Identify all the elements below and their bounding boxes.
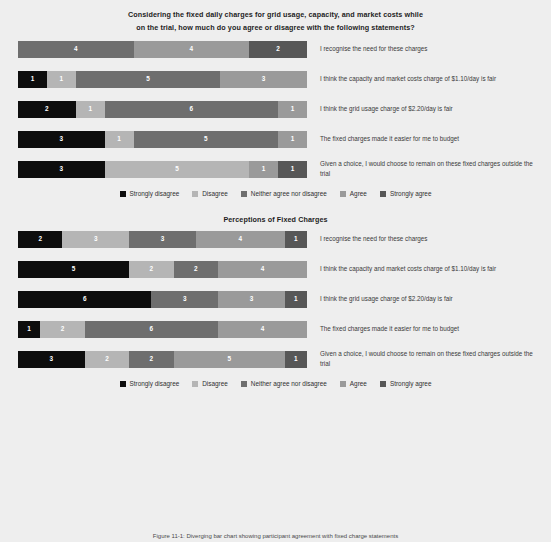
figure-page: Considering the fixed daily charges for … (0, 0, 551, 542)
chart-row: 2161I think the grid usage charge of $2.… (8, 94, 543, 124)
figure-caption: Figure 11-1: Diverging bar chart showing… (0, 533, 551, 542)
legend-item: Agree (340, 380, 367, 387)
stacked-bar: 23341 (18, 231, 307, 248)
row-label: The fixed charges made it easier for me … (320, 324, 543, 334)
bar-segment: 1 (105, 131, 134, 148)
legend-label: Strongly disagree (130, 190, 180, 197)
legend-item: Strongly agree (380, 190, 432, 197)
legend-swatch-icon (340, 191, 346, 197)
bar-segment: 2 (18, 101, 76, 118)
section-spacer (0, 197, 551, 215)
bar-segment: 5 (134, 131, 279, 148)
bar-segment: 3 (18, 131, 105, 148)
stacked-bar: 1153 (18, 71, 307, 88)
bar-segment: 1 (76, 101, 105, 118)
bar-segment: 3 (218, 291, 285, 308)
legend-item: Neither agree nor disagree (241, 380, 327, 387)
chart-1-rows: 442I recognise the need for these charge… (8, 34, 543, 184)
row-label: Given a choice, I would choose to remain… (320, 349, 543, 369)
bar-segment: 3 (62, 231, 129, 248)
legend-label: Strongly agree (390, 380, 432, 387)
legend-label: Agree (350, 190, 367, 197)
row-label: I think the grid usage charge of $2.20/d… (320, 294, 543, 304)
bar-segment: 1 (278, 161, 307, 178)
legend-item: Strongly disagree (120, 380, 180, 387)
row-label: I think the capacity and market costs ch… (320, 74, 543, 84)
chart-row: 5224I think the capacity and market cost… (8, 254, 543, 284)
legend-swatch-icon (380, 191, 386, 197)
chart-row: 1264The fixed charges made it easier for… (8, 314, 543, 344)
bar-segment: 3 (151, 291, 218, 308)
legend-swatch-icon (192, 381, 198, 387)
legend-item: Agree (340, 190, 367, 197)
row-label: I think the capacity and market costs ch… (320, 264, 543, 274)
row-label: I recognise the need for these charges (320, 234, 543, 244)
chart-row: 6331I think the grid usage charge of $2.… (8, 284, 543, 314)
chart-row: 3151The fixed charges made it easier for… (8, 124, 543, 154)
chart-1: Considering the fixed daily charges for … (0, 0, 551, 197)
bar-segment: 5 (174, 351, 285, 368)
row-label: I recognise the need for these charges (320, 44, 543, 54)
chart-row: 442I recognise the need for these charge… (8, 34, 543, 64)
bar-segment: 4 (134, 41, 250, 58)
legend-swatch-icon (241, 191, 247, 197)
legend-label: Neither agree nor disagree (251, 190, 327, 197)
row-label: The fixed charges made it easier for me … (320, 134, 543, 144)
legend-swatch-icon (120, 381, 126, 387)
legend-item: Neither agree nor disagree (241, 190, 327, 197)
stacked-bar: 6331 (18, 291, 307, 308)
legend-item: Strongly agree (380, 380, 432, 387)
bar-segment: 3 (220, 71, 307, 88)
bar-segment: 6 (18, 291, 151, 308)
chart-1-question: Considering the fixed daily charges for … (8, 0, 543, 34)
bar-segment: 4 (218, 321, 307, 338)
bar-segment: 5 (18, 261, 129, 278)
bar-segment: 6 (85, 321, 218, 338)
legend-label: Strongly agree (390, 190, 432, 197)
chart-2: Perceptions of Fixed Charges 23341I reco… (0, 215, 551, 387)
legend-item: Disagree (192, 190, 228, 197)
bar-segment: 3 (18, 161, 105, 178)
bar-segment: 1 (285, 351, 307, 368)
stacked-bar: 442 (18, 41, 307, 58)
row-label: I think the grid usage charge of $2.20/d… (320, 104, 543, 114)
bar-segment: 4 (18, 41, 134, 58)
chart-row: 1153I think the capacity and market cost… (8, 64, 543, 94)
bar-segment: 4 (196, 231, 285, 248)
chart-row: 23341I recognise the need for these char… (8, 224, 543, 254)
stacked-bar: 3151 (18, 131, 307, 148)
legend-label: Disagree (202, 380, 228, 387)
chart-2-title: Perceptions of Fixed Charges (8, 215, 543, 224)
stacked-bar: 32251 (18, 351, 307, 368)
legend-item: Disagree (192, 380, 228, 387)
bar-segment: 3 (129, 231, 196, 248)
legend-swatch-icon (380, 381, 386, 387)
row-label: Given a choice, I would choose to remain… (320, 159, 543, 179)
legend-label: Disagree (202, 190, 228, 197)
bar-segment: 4 (218, 261, 307, 278)
stacked-bar: 3511 (18, 161, 307, 178)
bar-segment: 2 (174, 261, 218, 278)
question-line-1: Considering the fixed daily charges for … (78, 9, 473, 22)
stacked-bar: 2161 (18, 101, 307, 118)
bar-segment: 2 (40, 321, 84, 338)
legend-label: Strongly disagree (130, 380, 180, 387)
bar-segment: 1 (18, 71, 47, 88)
stacked-bar: 1264 (18, 321, 307, 338)
bar-segment: 2 (129, 351, 173, 368)
legend-swatch-icon (340, 381, 346, 387)
bar-segment: 5 (105, 161, 250, 178)
bar-segment: 1 (249, 161, 278, 178)
legend-swatch-icon (241, 381, 247, 387)
bar-segment: 1 (278, 131, 307, 148)
bar-segment: 1 (285, 291, 307, 308)
bar-segment: 1 (278, 101, 307, 118)
chart-1-legend: Strongly disagreeDisagreeNeither agree n… (8, 184, 543, 197)
legend-item: Strongly disagree (120, 190, 180, 197)
bar-segment: 1 (47, 71, 76, 88)
bar-segment: 3 (18, 351, 85, 368)
bar-segment: 1 (285, 231, 307, 248)
bar-segment: 5 (76, 71, 221, 88)
chart-2-legend: Strongly disagreeDisagreeNeither agree n… (8, 374, 543, 387)
bar-segment: 2 (85, 351, 129, 368)
